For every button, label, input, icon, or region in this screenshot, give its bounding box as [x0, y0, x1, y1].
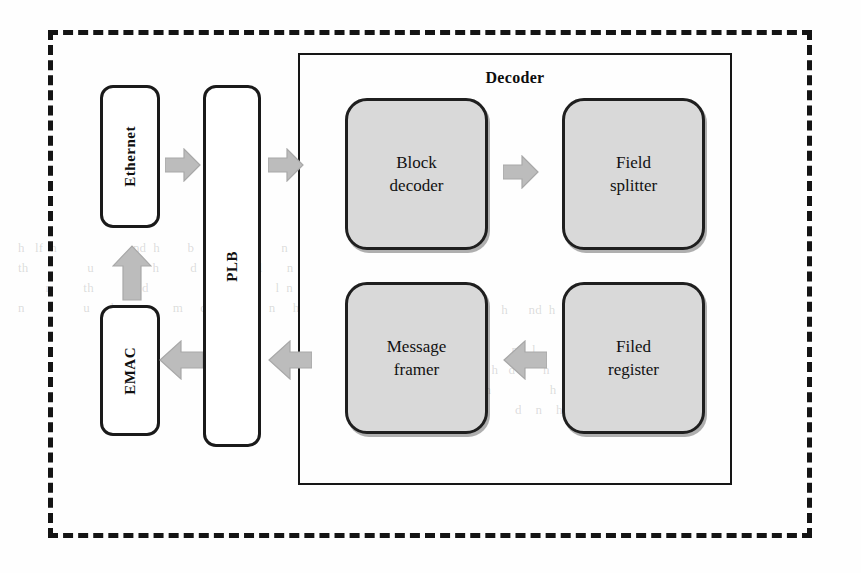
- block-plb-label: PLB: [224, 251, 241, 282]
- stage-filed-register: Filedregister: [562, 282, 705, 434]
- stage-field-splitter: Fieldsplitter: [562, 98, 705, 250]
- stage-filed-register-line1: Filed: [616, 337, 651, 356]
- stage-message-framer-line2: framer: [394, 360, 439, 379]
- stage-block-decoder-label: Blockdecoder: [390, 151, 444, 197]
- block-emac-label: EMAC: [122, 347, 139, 395]
- stage-block-decoder-line2: decoder: [390, 176, 444, 195]
- stage-field-splitter-label: Fieldsplitter: [610, 151, 657, 197]
- block-ethernet: Ethernet: [100, 85, 160, 228]
- diagram-canvas: h lf h nd h b f h n th u h d n l n n th …: [0, 0, 861, 573]
- stage-message-framer-line1: Message: [387, 337, 446, 356]
- block-ethernet-label: Ethernet: [122, 126, 139, 187]
- block-emac: EMAC: [100, 305, 160, 436]
- decoder-title: Decoder: [300, 69, 730, 87]
- stage-field-splitter-line2: splitter: [610, 176, 657, 195]
- block-plb: PLB: [203, 85, 261, 447]
- stage-filed-register-line2: register: [608, 360, 659, 379]
- stage-message-framer-label: Messageframer: [387, 335, 446, 381]
- stage-field-splitter-line1: Field: [616, 153, 651, 172]
- stage-filed-register-label: Filedregister: [608, 335, 659, 381]
- stage-block-decoder-line1: Block: [396, 153, 437, 172]
- stage-message-framer: Messageframer: [345, 282, 488, 434]
- stage-block-decoder: Blockdecoder: [345, 98, 488, 250]
